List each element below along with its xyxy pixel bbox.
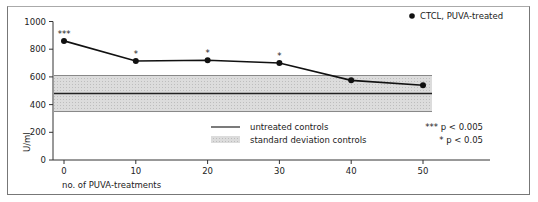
x-tick-label: 40 xyxy=(346,166,357,176)
x-tick-label: 10 xyxy=(130,166,141,176)
x-tick-label: 50 xyxy=(418,166,429,176)
y-tick-label: 400 xyxy=(30,100,46,110)
legend-line-label: untreated controls xyxy=(250,122,329,132)
legend-band-label: standard deviation controls xyxy=(250,135,367,145)
line-chart: 0200400600800100001020304050no. of PUVA-… xyxy=(0,0,538,202)
x-axis-label: no. of PUVA-treatments xyxy=(62,180,162,190)
x-tick-label: 20 xyxy=(202,166,213,176)
legend-sig2: * p < 0.05 xyxy=(439,135,483,145)
y-axis-label: U/ml xyxy=(22,132,32,152)
significance-marker: * xyxy=(277,51,281,61)
y-tick-label: 800 xyxy=(30,44,46,54)
data-point xyxy=(348,77,354,83)
y-tick-label: 0 xyxy=(41,155,46,165)
significance-marker: * xyxy=(134,49,138,59)
y-tick-label: 600 xyxy=(30,72,46,82)
data-point xyxy=(420,82,426,88)
x-tick-label: 0 xyxy=(61,166,66,176)
y-tick-label: 200 xyxy=(30,127,46,137)
x-tick-label: 30 xyxy=(274,166,285,176)
legend-sig1: *** p < 0.005 xyxy=(425,122,483,132)
significance-marker: *** xyxy=(58,29,71,39)
legend-band-icon xyxy=(211,136,240,143)
significance-marker: * xyxy=(205,48,209,58)
legend-dot-icon xyxy=(409,13,415,19)
legend-series-label: CTCL, PUVA-treated xyxy=(420,11,503,21)
y-tick-label: 1000 xyxy=(24,17,46,27)
